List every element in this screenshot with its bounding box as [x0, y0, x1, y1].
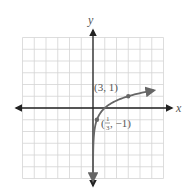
y-axis-label: y [87, 13, 94, 27]
point-label-3-1: (3, 1) [94, 81, 118, 94]
x-axis-label: x [175, 101, 182, 115]
svg-text:, −1): , −1) [110, 117, 131, 130]
point-3-1 [126, 94, 130, 98]
graph: x y (3, 1) ( 1 3 , −1) [0, 0, 195, 194]
point-third-neg1 [95, 118, 99, 122]
svg-text:(: ( [101, 117, 105, 130]
